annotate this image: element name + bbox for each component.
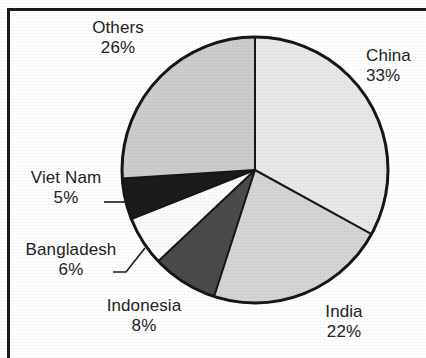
pie-label-china: China 33% — [366, 46, 426, 86]
pie-label-vietnam-name: Viet Nam — [8, 168, 124, 188]
pie-label-china-value: 33% — [366, 66, 426, 86]
pie-chart-figure: Others 26% China 33% India 22% Indonesia… — [0, 0, 426, 358]
pie-label-others-name: Others — [62, 18, 174, 38]
pie-label-bangladesh-value: 6% — [6, 260, 136, 280]
pie-label-india-value: 22% — [300, 322, 388, 342]
pie-label-india-name: India — [300, 302, 388, 322]
pie-label-others-value: 26% — [62, 38, 174, 58]
pie-label-india: India 22% — [300, 302, 388, 342]
pie-label-others: Others 26% — [62, 18, 174, 58]
pie-label-indonesia: Indonesia 8% — [84, 296, 204, 336]
pie-label-bangladesh: Bangladesh 6% — [6, 240, 136, 280]
pie-slice-others — [122, 37, 255, 179]
pie-label-vietnam-value: 5% — [8, 188, 124, 208]
pie-label-china-name: China — [366, 46, 426, 66]
pie-label-vietnam: Viet Nam 5% — [8, 168, 124, 208]
pie-label-indonesia-value: 8% — [84, 316, 204, 336]
pie-label-indonesia-name: Indonesia — [84, 296, 204, 316]
pie-label-bangladesh-name: Bangladesh — [6, 240, 136, 260]
